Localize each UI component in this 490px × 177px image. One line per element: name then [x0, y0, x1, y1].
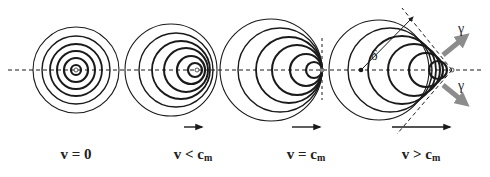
label-supersonic: v > cm — [402, 146, 441, 163]
label-stationary: v = 0 — [60, 146, 91, 163]
wavefront-diagram: v = 0 v < cm v = cm v > cm δ γ γ — [0, 0, 490, 177]
gamma-arrow-upper-icon — [443, 37, 465, 55]
label-sonic: v = cm — [287, 146, 326, 163]
label-text: v < c — [174, 146, 204, 162]
mach-cone-upper-line — [402, 8, 452, 70]
source-point-icon — [195, 68, 199, 72]
radius-arrow-icon — [361, 17, 413, 70]
label-text: v = 0 — [60, 146, 91, 162]
label-subscript: m — [317, 152, 325, 163]
gamma-symbol-lower: γ — [458, 78, 464, 94]
label-subscript: m — [432, 152, 440, 163]
label-text: v = c — [287, 146, 317, 162]
label-text: v > c — [402, 146, 432, 162]
gamma-symbol-upper: γ — [458, 21, 464, 37]
mach-cone-lower-line — [397, 70, 452, 134]
source-point-icon — [74, 68, 78, 72]
label-subscript: m — [204, 152, 212, 163]
label-subsonic: v < cm — [174, 146, 213, 163]
delta-symbol: δ — [371, 48, 378, 64]
